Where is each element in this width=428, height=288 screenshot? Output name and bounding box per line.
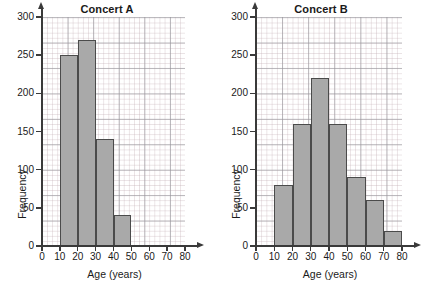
x-axis-title-concert-a: Age (years) [42,268,187,280]
bar [60,55,78,246]
y-tick-label: 250 [2,50,34,60]
bar [293,124,311,246]
bar [78,40,96,246]
x-tick-label: 60 [356,252,376,262]
y-tick-label: 300 [216,12,248,22]
y-axis-arrow-icon-concert-b [252,2,258,9]
bar [366,200,384,246]
x-tick-label: 50 [337,252,357,262]
chart-panel-concert-a: Concert A 050100150200250300 01020304050… [0,0,214,288]
y-tick-mark [36,93,42,94]
x-axis-line-concert-a [41,245,198,247]
x-tick-label: 80 [392,252,412,262]
x-axis-line-concert-b [255,245,415,247]
bar [329,124,347,246]
y-tick-mark [250,207,256,208]
plot-area-concert-a [42,17,185,246]
y-tick-mark [36,207,42,208]
y-tick-mark [36,54,42,55]
histogram-figure: Concert A 050100150200250300 01020304050… [0,0,428,288]
bar [96,139,114,246]
y-axis-arrow-icon-concert-a [38,2,44,9]
x-tick-label: 0 [246,252,266,262]
y-axis-title-concert-a: Frequency [16,134,28,254]
bar [114,215,132,246]
y-tick-mark [36,16,42,17]
y-tick-mark [250,131,256,132]
y-tick-mark [250,54,256,55]
bar-series-concert-a [42,17,185,246]
x-axis-arrow-icon-concert-a [197,242,204,248]
y-tick-mark [250,169,256,170]
y-axis-title-concert-b: Frequency [230,134,242,254]
bar [347,177,365,246]
x-tick-label: 10 [264,252,284,262]
x-axis-arrow-icon-concert-b [414,242,421,248]
chart-panel-concert-b: Concert B 050100150200250300 01020304050… [214,0,428,288]
x-tick-label: 80 [175,252,195,262]
y-axis-title-wrap-concert-a: Frequency [6,70,20,190]
bar-series-concert-b [256,17,402,246]
x-tick-label: 70 [374,252,394,262]
plot-area-concert-b [256,17,402,246]
x-tick-label: 20 [283,252,303,262]
bar [311,78,329,246]
y-tick-label: 250 [216,50,248,60]
y-tick-mark [250,93,256,94]
y-axis-line-concert-b [255,8,257,246]
y-tick-mark [36,131,42,132]
y-tick-mark [250,16,256,17]
bar [274,185,292,246]
x-tick-label: 30 [301,252,321,262]
y-tick-mark [36,169,42,170]
y-tick-label: 300 [2,12,34,22]
x-axis-title-concert-b: Age (years) [256,268,404,280]
y-axis-title-wrap-concert-b: Frequency [220,70,234,190]
y-axis-line-concert-a [41,8,43,246]
x-tick-label: 40 [319,252,339,262]
bar [384,231,402,246]
